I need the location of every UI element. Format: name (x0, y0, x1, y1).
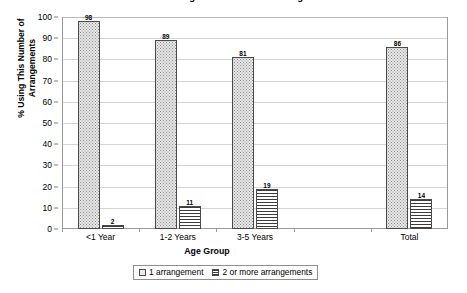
bar[interactable]: 89 (155, 40, 177, 229)
y-tick-label-60: 60 (43, 98, 52, 107)
bar-value-label: 89 (162, 33, 169, 40)
y-tick-label-100: 100 (38, 13, 52, 21)
x-axis: <1 Year1-2 Years3-5 YearsTotal (62, 232, 448, 244)
x-tick-label: 1-2 Years (160, 232, 196, 242)
bar-value-label: 19 (263, 182, 270, 189)
bar-value-label: 14 (418, 192, 425, 199)
bar[interactable]: 81 (232, 57, 254, 229)
legend-item[interactable]: 1 arrangement (139, 268, 203, 277)
y-tick-label-50: 50 (43, 119, 52, 128)
bar-group: 8911 (139, 17, 216, 229)
x-axis-title: Age Group (62, 246, 352, 256)
y-tick-mark-40 (54, 144, 58, 145)
bar[interactable]: 11 (179, 206, 201, 229)
y-tick-label-70: 70 (43, 76, 52, 85)
y-tick-mark-90 (54, 38, 58, 39)
bar-group: 8614 (371, 17, 448, 229)
bars-layer: 982891181198614 (62, 17, 448, 229)
x-tick-label: Total (400, 232, 418, 242)
x-tick-label: <1 Year (86, 232, 115, 242)
bar-value-label: 11 (186, 199, 193, 206)
bar-group: 982 (62, 17, 139, 229)
bar-value-label: 98 (85, 14, 92, 21)
y-tick-label-0: 0 (47, 225, 52, 234)
y-tick-label-10: 10 (43, 204, 52, 213)
y-tick-label-40: 40 (43, 140, 52, 149)
x-tick-mark (62, 229, 63, 232)
legend-item[interactable]: 2 or more arrangements (212, 268, 312, 277)
bar-group: 8119 (216, 17, 293, 229)
legend-swatch-icon (212, 269, 219, 276)
y-tick-label-90: 90 (43, 34, 52, 43)
bar-value-label: 81 (239, 50, 246, 57)
y-tick-label-30: 30 (43, 161, 52, 170)
y-tick-mark-100 (54, 17, 58, 18)
bar-group (294, 17, 371, 229)
bar[interactable]: 2 (102, 225, 124, 229)
x-tick-mark (139, 229, 140, 232)
y-tick-mark-80 (54, 59, 58, 60)
y-tick-mark-50 (54, 123, 58, 124)
legend-label: 2 or more arrangements (222, 268, 312, 277)
y-tick-mark-10 (54, 207, 58, 208)
y-tick-mark-0 (54, 229, 58, 230)
x-tick-label: 3-5 Years (237, 232, 273, 242)
y-tick-mark-30 (54, 165, 58, 166)
y-tick-label-20: 20 (43, 182, 52, 191)
legend-swatch-icon (139, 269, 146, 276)
chart-title: Percent Using This Number of Arrangement… (0, 0, 467, 2)
y-tick-mark-60 (54, 101, 58, 102)
bar[interactable]: 14 (410, 199, 432, 229)
legend-label: 1 arrangement (149, 268, 203, 277)
bar[interactable]: 98 (78, 21, 100, 229)
y-tick-mark-20 (54, 186, 58, 187)
bar[interactable]: 19 (256, 189, 278, 229)
x-tick-mark (294, 229, 295, 232)
chart-legend: 1 arrangement2 or more arrangements (133, 265, 318, 280)
bar-value-label: 2 (111, 218, 115, 225)
bar-value-label: 86 (394, 40, 401, 47)
y-tick-mark-70 (54, 80, 58, 81)
bar[interactable]: 86 (386, 47, 408, 229)
x-tick-mark (216, 229, 217, 232)
y-axis: 0102030405060708090100 (0, 17, 58, 229)
y-tick-label-80: 80 (43, 55, 52, 64)
x-tick-mark (371, 229, 372, 232)
